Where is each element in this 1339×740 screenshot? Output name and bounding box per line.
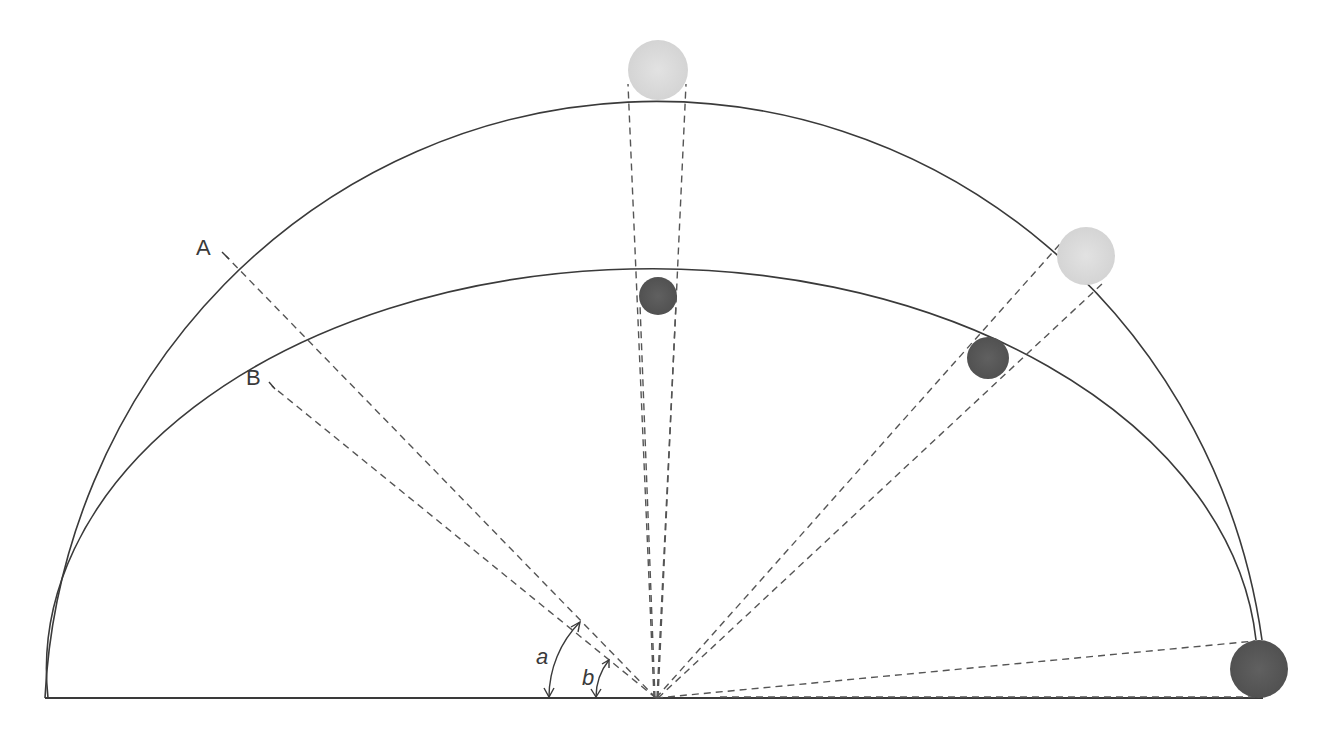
angle-arc-a [549, 622, 580, 697]
label-a-point: A [196, 235, 211, 260]
sight-line-zenith-inner-left [640, 305, 655, 698]
angle-arc-b [596, 660, 609, 697]
sight-line-zenith-left [628, 84, 654, 698]
sight-line-b [272, 386, 656, 698]
dark-body-mid [967, 337, 1009, 379]
label-angle-b: b [582, 665, 594, 690]
sight-line-mid-lower [658, 284, 1102, 698]
sight-line-horizon-upper [656, 641, 1255, 698]
label-angle-a: a [536, 644, 548, 669]
sight-line-mid-upper [656, 244, 1060, 698]
dark-body-horizon [1230, 640, 1288, 698]
light-body-mid [1057, 227, 1115, 285]
sight-lines [226, 84, 1257, 698]
sight-line-zenith-inner-right [657, 305, 676, 698]
tick-a [222, 252, 229, 259]
sight-line-a [226, 256, 656, 698]
sight-line-zenith-right [658, 84, 686, 698]
light-body-zenith [628, 40, 688, 100]
dark-body-zenith [639, 277, 677, 315]
diagram-canvas: A B a b [0, 0, 1339, 740]
tick-b [269, 382, 275, 389]
outer-arc [45, 101, 1262, 698]
label-b-point: B [246, 365, 261, 390]
